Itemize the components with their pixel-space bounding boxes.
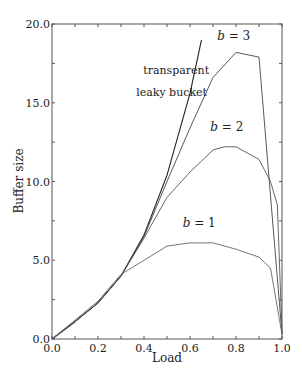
annotation-b1: b = 1 xyxy=(183,216,216,230)
x-tick-label: 1.0 xyxy=(273,342,291,355)
y-tick-label: 0.0 xyxy=(33,333,51,346)
y-tick-label: 5.0 xyxy=(33,254,51,267)
y-tick-label: 10.0 xyxy=(26,176,51,189)
y-axis-title: Buffer size xyxy=(12,148,26,213)
annotation-leaky: leaky bucket xyxy=(136,86,207,99)
series-line-transparent-leaky-bucket xyxy=(52,40,202,339)
y-tick-label: 20.0 xyxy=(26,18,51,31)
y-tick-label: 15.0 xyxy=(26,97,51,110)
x-tick-label: 0.6 xyxy=(181,342,199,355)
annotation-b2: b = 2 xyxy=(210,120,243,134)
buffer-size-chart: 0.00.20.40.60.81.00.05.010.015.020.0 Loa… xyxy=(0,0,302,379)
x-tick-label: 0.8 xyxy=(227,342,245,355)
x-tick-label: 0.4 xyxy=(135,342,153,355)
x-axis-title: Load xyxy=(152,351,182,365)
annotation-b3: b = 3 xyxy=(217,29,250,43)
series-line-b-1 xyxy=(52,243,282,339)
annotation-transparent: transparent xyxy=(143,64,209,77)
x-tick-label: 0.2 xyxy=(89,342,107,355)
